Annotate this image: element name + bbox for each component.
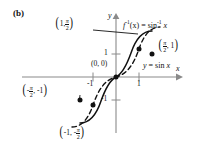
y-tick-label-neg1: -1 — [101, 95, 107, 103]
fraction-pi-over-2: π2 — [76, 127, 80, 140]
y-axis-arrowhead — [113, 13, 120, 19]
inverse-sin-exponent: -1 — [157, 19, 162, 25]
point-label-neg-1-neg-pi-over-2: (-1, -π2) — [59, 127, 85, 140]
fraction-pi-over-2: π2 — [29, 85, 33, 98]
sine-function-label: y = sin x — [143, 62, 170, 70]
leader-neg-pi-over-2-neg-1 — [80, 95, 81, 99]
inverse-of-x: (x) = sin — [130, 21, 157, 30]
x-tick-label-pos1: 1 — [137, 80, 141, 88]
dot-pi-over-2-1 — [150, 52, 155, 57]
point-label-pi-over-2-1: (π2, 1) — [158, 40, 179, 53]
coord-x: -1, - — [64, 128, 77, 137]
point-label-1-pi-over-2: (1,π2) — [55, 18, 74, 31]
dot-neg-1-neg-pi-over-2 — [91, 103, 96, 108]
dot-1-pi-over-2 — [137, 47, 142, 52]
figure-container: (b) y x -1 1 1 -1 (0, 0) f-1(x) = sin-1 … — [0, 0, 203, 153]
fraction-pi-over-2: π2 — [163, 40, 167, 53]
fraction-denominator: 2 — [29, 92, 33, 98]
fraction-denominator: 2 — [76, 134, 80, 140]
sine-eq-glyph: = sin — [149, 61, 165, 70]
coord-y: , -1 — [33, 86, 43, 95]
x-axis-arrowhead — [176, 74, 183, 81]
dot-origin — [114, 75, 119, 80]
plot-svg — [0, 0, 203, 153]
sine-x-glyph: x — [166, 61, 170, 70]
inverse-function-label: f-1(x) = sin-1 x — [123, 20, 167, 30]
fraction-numerator: π — [29, 85, 33, 92]
leader-lines-group — [80, 30, 139, 99]
fraction-denominator: 2 — [163, 47, 167, 53]
point-label-neg-pi-over-2-neg-1: (-π2, -1) — [22, 85, 48, 98]
panel-label: (b) — [13, 9, 24, 18]
x-tick-label-neg1: -1 — [87, 80, 93, 88]
y-tick-label-pos1: 1 — [104, 49, 108, 57]
origin-point-label: (0, 0) — [91, 60, 107, 68]
x-axis-label: x — [176, 65, 180, 73]
fraction-numerator: π — [76, 127, 80, 134]
sine-y-glyph: y — [143, 61, 147, 70]
inverse-tail-x: x — [164, 21, 168, 30]
fraction-numerator: π — [163, 40, 167, 47]
y-axis-label: y — [108, 12, 112, 20]
coord-y: , 1 — [167, 41, 175, 50]
